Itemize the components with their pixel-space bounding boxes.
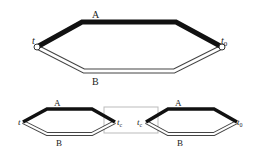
top-label-a: A bbox=[92, 9, 100, 20]
diagram: A B t t0 A B t tc A B tc t0 bbox=[0, 0, 257, 157]
bottom-right-hexagon: A B tc t0 bbox=[137, 98, 243, 148]
bottom-left-hexagon: A B t tc bbox=[18, 98, 123, 148]
bl-label-end: tc bbox=[117, 117, 123, 128]
top-label-b: B bbox=[92, 76, 99, 87]
top-start-node bbox=[34, 44, 40, 50]
bl-path-a bbox=[23, 109, 115, 122]
top-hexagon: A B t t0 bbox=[32, 9, 228, 87]
top-path-a bbox=[37, 22, 222, 47]
bl-label-a: A bbox=[54, 98, 61, 108]
br-label-start: tc bbox=[137, 117, 143, 128]
top-path-b-outline bbox=[37, 47, 222, 71]
bl-label-start: t bbox=[18, 117, 21, 127]
br-label-a: A bbox=[175, 98, 182, 108]
top-label-start: t bbox=[32, 35, 35, 46]
bl-label-b: B bbox=[56, 138, 62, 148]
br-label-end: t0 bbox=[237, 117, 243, 128]
br-path-a bbox=[146, 109, 237, 122]
br-label-b: B bbox=[177, 138, 183, 148]
